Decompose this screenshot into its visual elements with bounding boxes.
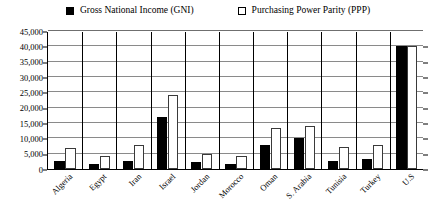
- bar-ppp: [373, 145, 383, 169]
- legend-label-ppp: Purchasing Power Parity (PPP): [252, 6, 371, 16]
- y-axis-tick-label: 30,000: [20, 74, 43, 83]
- y-axis-tick-label: 25,000: [20, 89, 43, 98]
- bar-gni: [157, 117, 167, 169]
- bar-gni: [328, 161, 338, 169]
- bar-group: [287, 32, 321, 169]
- right-axis-tick: [423, 139, 428, 140]
- y-axis-tick-label: 35,000: [20, 58, 43, 67]
- bar-group: [185, 32, 219, 169]
- legend-item-gni: Gross National Income (GNI): [66, 6, 194, 16]
- x-axis-tick-label: Tunisia: [324, 172, 348, 196]
- y-axis-tick-label: 5,000: [24, 150, 43, 159]
- right-axis-tick: [423, 108, 428, 109]
- y-axis-tick-label: 20,000: [20, 104, 43, 113]
- y-axis-tick-labels: 05,00010,00015,00020,00025,00030,00035,0…: [0, 32, 43, 170]
- bar-ppp: [305, 126, 315, 169]
- bar-gni: [362, 159, 372, 169]
- legend-swatch-hollow-square-icon: [238, 7, 246, 15]
- x-axis-tick-label: Egypt: [88, 172, 108, 192]
- legend-label-gni: Gross National Income (GNI): [80, 6, 194, 16]
- x-axis-tick-label: S. Arabia: [285, 172, 313, 200]
- bar-ppp: [168, 95, 178, 169]
- legend-swatch-filled-square-icon: [66, 7, 74, 15]
- gridline: [48, 30, 423, 31]
- plot-area: [47, 32, 423, 170]
- right-axis-ticks: [423, 32, 429, 170]
- x-axis-tick-label: Oman: [259, 172, 280, 193]
- x-axis-tick-label: Iran: [127, 172, 143, 188]
- x-axis-tick-label: Israel: [157, 172, 176, 191]
- x-axis-tick-label: Turkey: [359, 172, 382, 195]
- bar-gni: [260, 145, 270, 169]
- bar-group: [390, 32, 424, 169]
- bar-gni: [191, 162, 201, 169]
- right-axis-tick: [423, 124, 428, 125]
- bar-ppp: [236, 156, 246, 169]
- bar-group: [82, 32, 116, 169]
- y-axis-tick-label: 10,000: [20, 135, 43, 144]
- bar-gni: [123, 161, 133, 169]
- right-axis-tick: [423, 93, 428, 94]
- y-axis-tick-label: 15,000: [20, 120, 43, 129]
- bar-ppp: [202, 154, 212, 169]
- bar-gni: [54, 161, 64, 169]
- right-axis-tick: [423, 170, 428, 171]
- bar-gni: [294, 138, 304, 169]
- bar-ppp: [271, 128, 281, 169]
- x-axis-tick-labels: AlgeriaEgyptIranIsraelJordanMoroccoOmanS…: [47, 172, 423, 223]
- bar-group: [321, 32, 355, 169]
- right-axis-tick: [423, 62, 428, 63]
- bar-group: [219, 32, 253, 169]
- y-axis-tick-label: 40,000: [20, 43, 43, 52]
- bar-gni: [225, 164, 235, 169]
- bar-ppp: [407, 46, 417, 169]
- x-axis-tick-label: U.S: [401, 172, 416, 187]
- right-axis-tick: [423, 78, 428, 79]
- bars-layer: [48, 32, 423, 169]
- bar-group: [253, 32, 287, 169]
- right-axis-tick: [423, 154, 428, 155]
- bar-ppp: [134, 145, 144, 169]
- x-axis-tick-label: Algeria: [50, 172, 74, 196]
- bar-group: [116, 32, 150, 169]
- bar-ppp: [65, 148, 75, 169]
- chart-legend: Gross National Income (GNI) Purchasing P…: [0, 3, 436, 19]
- x-axis-tick-label: Jordan: [189, 172, 211, 194]
- bar-group: [48, 32, 82, 169]
- legend-item-ppp: Purchasing Power Parity (PPP): [238, 6, 371, 16]
- bar-ppp: [339, 147, 349, 169]
- bar-group: [151, 32, 185, 169]
- right-axis-tick: [423, 47, 428, 48]
- x-axis-tick-label: Morocco: [217, 172, 245, 200]
- y-axis-tick-label: 45,000: [20, 28, 43, 37]
- bar-gni: [89, 164, 99, 169]
- bar-group: [356, 32, 390, 169]
- bar-gni: [396, 46, 406, 169]
- bar-ppp: [100, 156, 110, 169]
